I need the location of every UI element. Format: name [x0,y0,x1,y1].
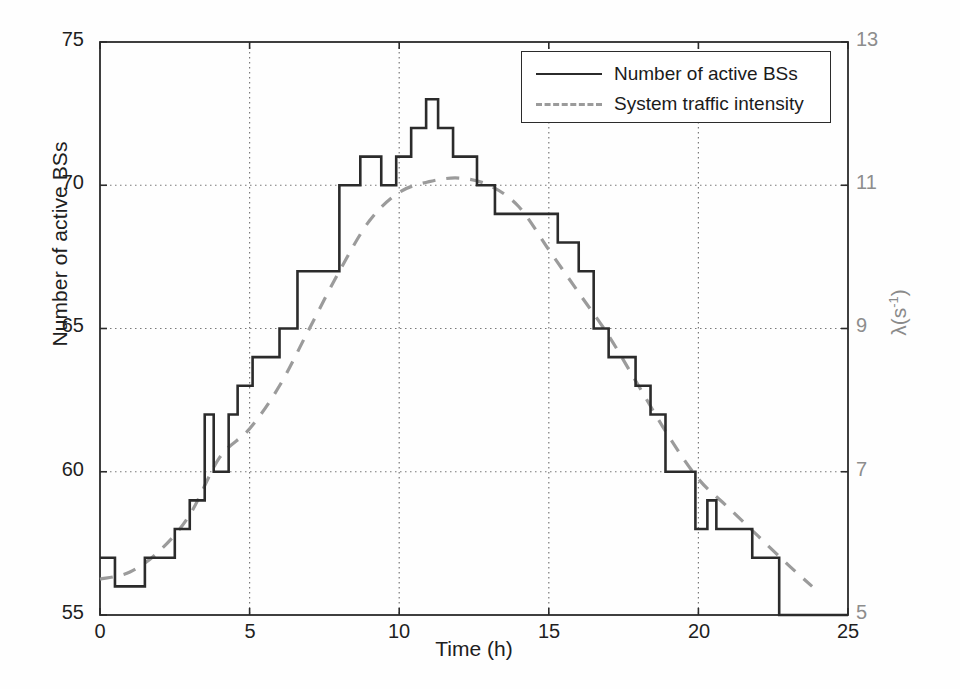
legend-label-traffic-intensity: System traffic intensity [614,93,804,115]
solid-line-key [532,67,606,81]
series-number-of-active-bss [100,99,848,615]
legend-item-traffic-intensity: System traffic intensity [532,89,820,119]
chart-figure: Number of active BSs λ(s-1) Time (h) 75 … [0,0,960,689]
legend: Number of active BSs System traffic inte… [521,51,831,123]
dashed-line-key [532,97,606,111]
legend-item-active-bss: Number of active BSs [532,59,820,89]
series-system-traffic-intensity [100,178,812,586]
legend-label-active-bss: Number of active BSs [614,63,798,85]
